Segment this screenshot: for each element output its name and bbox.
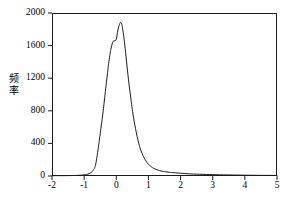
x-axis-tick-label: 0 [104,180,128,190]
x-axis-tick-label: 5 [265,180,289,190]
y-axis-tick-label: 1200 [26,73,45,82]
x-axis-tick-label: -2 [40,180,64,190]
y-axis-tick-label: 0 [40,171,45,180]
x-axis-tick-labels: -2-1012345 [0,180,290,196]
axis-tick-marks [48,13,277,180]
x-axis-tick-label: 2 [169,180,193,190]
y-axis-tick-label: 400 [31,138,45,147]
frequency-distribution-curve [52,22,277,175]
x-axis-tick-label: 3 [201,180,225,190]
y-axis-tick-label: 2000 [26,8,45,17]
y-axis-tick-label: 1600 [26,41,45,50]
x-axis-tick-label: 1 [136,180,160,190]
chart-figure: 频 率 0400800120016002000 -2-1012345 [0,0,290,208]
x-axis-tick-label: -1 [72,180,96,190]
x-axis-tick-label: 4 [233,180,257,190]
y-axis-tick-labels: 0400800120016002000 [0,0,45,208]
y-axis-tick-label: 800 [31,106,45,115]
plot-canvas [52,13,277,176]
